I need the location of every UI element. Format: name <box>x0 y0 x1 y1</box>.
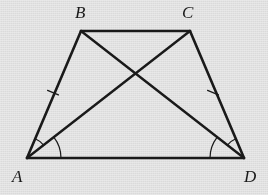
angle-arc-CAD <box>54 137 61 158</box>
vertex-label-c: C <box>182 4 193 21</box>
trapezoid-diagram-svg <box>0 0 268 195</box>
geometry-figure: A B C D <box>0 0 268 195</box>
vertex-label-a: A <box>12 168 22 185</box>
diagonal-BD <box>81 31 244 158</box>
angle-arc-BAC <box>35 139 43 145</box>
vertex-label-d: D <box>244 168 256 185</box>
vertex-label-b: B <box>75 4 85 21</box>
angle-arc-CDB <box>227 139 235 145</box>
diagonal-AC <box>27 31 190 158</box>
angle-arc-BDA <box>210 137 217 158</box>
